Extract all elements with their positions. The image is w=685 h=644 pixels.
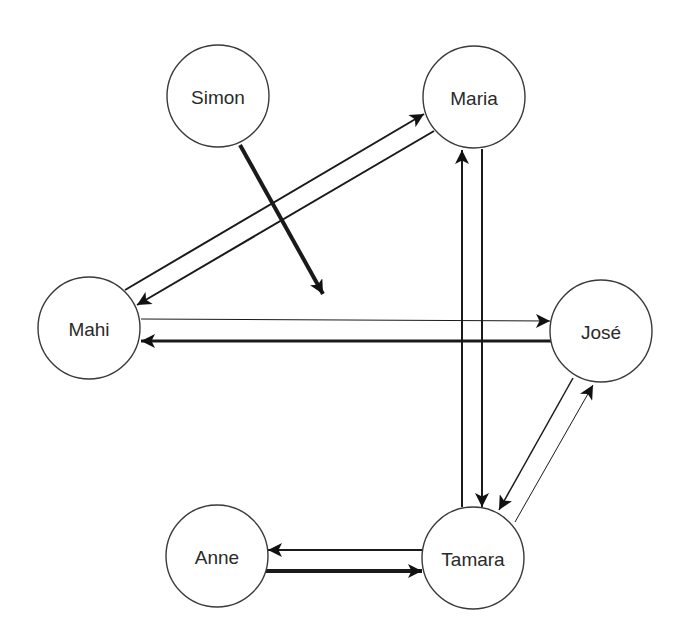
node-maria: Maria (423, 46, 525, 148)
node-tamara-label: Tamara (441, 549, 505, 570)
node-simon-label: Simon (191, 87, 245, 108)
node-jose: José (550, 280, 652, 382)
edge-mahi-to-jose (141, 319, 550, 321)
edges-group (125, 114, 593, 571)
social-network-diagram: Simon Maria Mahi José Anne Tamara (0, 0, 685, 644)
edge-mahi-to-maria (125, 114, 424, 290)
node-jose-label: José (581, 322, 621, 343)
edge-maria-to-mahi (137, 131, 434, 305)
node-mahi-label: Mahi (68, 319, 109, 340)
node-simon: Simon (167, 45, 269, 147)
node-mahi: Mahi (38, 277, 140, 379)
node-anne-label: Anne (195, 547, 239, 568)
edge-jose-to-tamara (499, 378, 573, 510)
node-maria-label: Maria (450, 88, 498, 109)
edge-tamara-to-jose (515, 385, 593, 522)
node-anne: Anne (166, 505, 268, 607)
nodes-group: Simon Maria Mahi José Anne Tamara (38, 45, 652, 609)
node-tamara: Tamara (422, 507, 524, 609)
